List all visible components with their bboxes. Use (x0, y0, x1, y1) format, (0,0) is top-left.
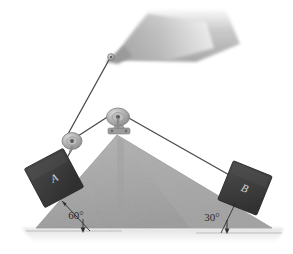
cord-anchor-to-lower-pulley (68, 58, 110, 134)
lower-pulley-hub (70, 139, 74, 143)
wedge-crest-shade (117, 137, 124, 228)
angle-left-label: 60° (68, 209, 83, 221)
ceiling-anchor-hub (110, 56, 112, 58)
angle-right-label: 30° (204, 211, 219, 223)
lower-pulley (62, 133, 82, 152)
ceiling-overhang (106, 8, 240, 64)
figure-canvas: A B 60° 30° (0, 0, 293, 254)
ceiling-anchor (108, 54, 115, 61)
apex-bolt-left (111, 130, 114, 133)
ground-shadow-band (22, 228, 284, 243)
upper-pulley (107, 108, 130, 128)
ground-shadow (22, 228, 284, 243)
physics-figure: A B 60° 30° (0, 0, 293, 254)
apex-bolt-right (125, 130, 128, 133)
